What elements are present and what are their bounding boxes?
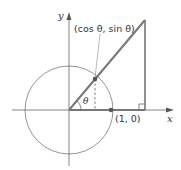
y-axis-arrow-icon (67, 12, 72, 20)
x-axis-arrow-icon (166, 108, 174, 113)
point-cos-sin (93, 77, 98, 82)
unit-circle-diagram: y x (cos θ, sin θ) (1, 0) θ (0, 0, 181, 170)
x-axis-label: x (167, 113, 173, 124)
point-unit (109, 108, 114, 113)
y-axis-label: y (57, 10, 64, 21)
angle-arc (77, 101, 81, 110)
label-leader-line (95, 34, 100, 78)
angle-label: θ (83, 96, 89, 106)
unit-point-label: (1, 0) (115, 113, 141, 124)
point-cos-sin-label: (cos θ, sin θ) (74, 23, 135, 34)
